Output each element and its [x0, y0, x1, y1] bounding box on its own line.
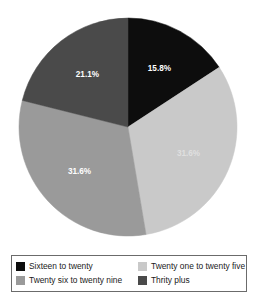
- legend-item-label: Thrity plus: [151, 275, 190, 285]
- pie-slice-group: [19, 18, 237, 236]
- chart-legend: Sixteen to twenty Twenty one to twenty f…: [11, 255, 247, 292]
- legend-swatch-icon: [138, 262, 147, 271]
- legend-item-label: Sixteen to twenty: [29, 261, 93, 271]
- pie-chart: 15.8%31.6%31.6%21.1%: [0, 0, 260, 248]
- legend-swatch-icon: [16, 276, 25, 285]
- legend-item-sixteen-to-twenty[interactable]: Sixteen to twenty: [16, 259, 138, 273]
- legend-row: Twenty six to twenty nine Thrity plus: [16, 273, 242, 287]
- legend-row: Sixteen to twenty Twenty one to twenty f…: [16, 259, 242, 273]
- legend-item-twenty-six-to-twenty-nine[interactable]: Twenty six to twenty nine: [16, 273, 138, 287]
- legend-item-label: Twenty six to twenty nine: [29, 275, 122, 285]
- pie-slice-label: 31.6%: [68, 167, 92, 176]
- legend-item-label: Twenty one to twenty five: [151, 261, 245, 271]
- pie-slice-label: 15.8%: [148, 64, 172, 73]
- legend-item-thrity-plus[interactable]: Thrity plus: [138, 273, 242, 287]
- pie-slice-label: 31.6%: [177, 149, 201, 158]
- legend-item-twenty-one-to-twenty-five[interactable]: Twenty one to twenty five: [138, 259, 245, 273]
- legend-swatch-icon: [16, 262, 25, 271]
- pie-slice-label: 21.1%: [76, 70, 100, 79]
- legend-swatch-icon: [138, 276, 147, 285]
- pie-chart-canvas: 15.8%31.6%31.6%21.1%: [0, 0, 260, 248]
